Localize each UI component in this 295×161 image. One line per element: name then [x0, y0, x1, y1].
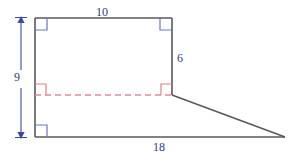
shape-outline	[35, 18, 285, 137]
geometry-diagram-svg	[0, 0, 295, 161]
dimension-label-left: 9	[14, 71, 20, 83]
right-angle-marker-dashed-left-icon	[35, 84, 46, 95]
dimension-label-bottom: 18	[153, 141, 165, 153]
right-angle-marker-top-right-icon	[160, 18, 172, 30]
right-angle-marker-dashed-right-icon	[161, 84, 172, 95]
dimension-label-top: 10	[96, 6, 108, 18]
geometry-figure: 10 6 9 18	[0, 0, 295, 161]
right-angle-marker-top-left-icon	[35, 18, 47, 30]
edge-hypotenuse	[172, 95, 285, 137]
dimension-label-right: 6	[177, 52, 183, 64]
right-angle-marker-bottom-left-icon	[35, 125, 47, 137]
